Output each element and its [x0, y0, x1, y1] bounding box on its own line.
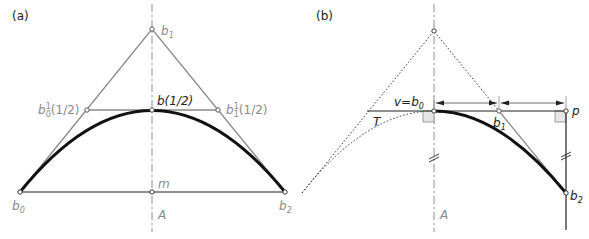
- panel-b-tag: (b): [316, 9, 333, 23]
- dimension-arrow-1: [436, 101, 497, 106]
- panel-b: (b) v=b0 T b1 p b2 A: [302, 4, 583, 232]
- point-v-b0: [432, 109, 436, 113]
- point-b-half: [150, 108, 154, 112]
- point-m: [150, 190, 154, 194]
- label-v-eq-b0: v=b0: [394, 95, 424, 111]
- label-b1: b1: [161, 24, 174, 40]
- label-axis-a: A: [157, 208, 166, 222]
- panel-a-tag: (a): [12, 9, 29, 23]
- point-b1: [150, 27, 154, 31]
- dotted-control-polygon: [302, 31, 499, 193]
- label-b0: b0: [12, 199, 25, 215]
- label-b-half: b(1/2): [157, 94, 193, 108]
- label-m: m: [158, 177, 170, 191]
- label-axis-a-b: A: [439, 208, 448, 222]
- mirrored-curve-dotted: [302, 111, 434, 193]
- label-b1: b1: [493, 116, 506, 132]
- point-b2: [283, 190, 287, 194]
- label-b0-1-half: b10(1/2): [38, 102, 80, 119]
- point-b1-1: [216, 108, 220, 112]
- point-b1: [497, 109, 501, 113]
- panel-a: (a) b1 b(1/2) b10(1/2) b11(1/2) m b0 b2 …: [12, 4, 292, 232]
- point-b2: [564, 191, 568, 195]
- bezier-diagram: (a) b1 b(1/2) b10(1/2) b11(1/2) m b0 b2 …: [0, 0, 589, 239]
- point-apex: [432, 29, 436, 33]
- label-p: p: [571, 104, 580, 118]
- point-p: [564, 109, 568, 113]
- label-b1-1-half: b11(1/2): [226, 102, 268, 119]
- label-b2: b2: [570, 189, 583, 205]
- point-b0-1: [85, 108, 89, 112]
- point-b0: [18, 190, 22, 194]
- label-b2: b2: [279, 199, 292, 215]
- dimension-arrow-2: [501, 101, 564, 106]
- label-t: T: [373, 115, 382, 129]
